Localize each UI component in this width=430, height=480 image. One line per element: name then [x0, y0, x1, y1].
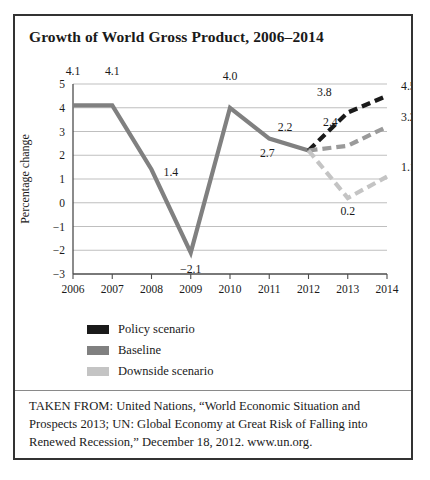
source-divider	[15, 390, 411, 391]
data-point-label: 2.7	[260, 146, 275, 160]
legend-label-downside-scenario: Downside scenario	[118, 365, 213, 378]
legend-item-downside-scenario: Downside scenario	[87, 361, 387, 382]
legend-swatch-baseline	[87, 346, 109, 355]
legend-swatch-downside-scenario	[87, 367, 109, 376]
data-point-label: 4.1	[105, 64, 120, 78]
legend-label-baseline: Baseline	[118, 344, 161, 357]
y-axis-title: Percentage change	[18, 134, 32, 224]
legend-swatch-policy-scenario	[87, 325, 109, 334]
data-point-label: 3.2	[401, 110, 411, 124]
data-point-label: 2.2	[278, 120, 293, 134]
chart-plot-area: −3−2−10123452006200720082009201020112012…	[15, 52, 411, 302]
data-point-label: 1.1	[401, 160, 411, 174]
data-point-label: 4.5	[401, 79, 411, 93]
x-tick-label: 2010	[219, 283, 242, 295]
chart-legend: Policy scenario Baseline Downside scenar…	[87, 319, 387, 382]
source-citation: TAKEN FROM: United Nations, “World Econo…	[29, 398, 401, 452]
x-tick-label: 2014	[376, 283, 399, 295]
y-tick-label: −3	[53, 268, 65, 280]
y-tick-label: 1	[59, 173, 65, 185]
data-point-label: 4.0	[223, 69, 238, 83]
legend-item-baseline: Baseline	[87, 340, 387, 361]
y-tick-label: 5	[59, 78, 65, 90]
data-point-label: 1.4	[164, 165, 179, 179]
page-title: Growth of World Gross Product, 2006–2014	[29, 28, 324, 46]
y-tick-label: 3	[59, 126, 65, 138]
x-tick-label: 2009	[179, 283, 202, 295]
data-point-label: −2.1	[180, 262, 202, 276]
x-tick-label: 2007	[101, 283, 124, 295]
series-downside-scenario	[309, 151, 388, 199]
x-tick-label: 2011	[258, 283, 281, 295]
y-tick-label: −1	[53, 221, 65, 233]
figure-frame: Growth of World Gross Product, 2006–2014…	[13, 14, 413, 460]
line-chart: −3−2−10123452006200720082009201020112012…	[15, 52, 411, 302]
y-tick-label: 4	[59, 102, 65, 114]
x-tick-label: 2013	[336, 283, 359, 295]
x-tick-label: 2006	[62, 283, 85, 295]
x-tick-label: 2008	[140, 283, 163, 295]
y-tick-label: −2	[53, 244, 65, 256]
x-tick-label: 2012	[297, 283, 320, 295]
data-point-label: 4.1	[66, 64, 81, 78]
data-point-label: 3.8	[317, 85, 332, 99]
data-point-label: 2.4	[323, 115, 338, 129]
y-tick-label: 2	[59, 149, 65, 161]
legend-item-policy-scenario: Policy scenario	[87, 319, 387, 340]
data-point-label: 0.2	[340, 204, 355, 218]
series-policy-scenario	[309, 96, 388, 151]
y-tick-label: 0	[59, 197, 65, 209]
legend-label-policy-scenario: Policy scenario	[118, 323, 195, 336]
